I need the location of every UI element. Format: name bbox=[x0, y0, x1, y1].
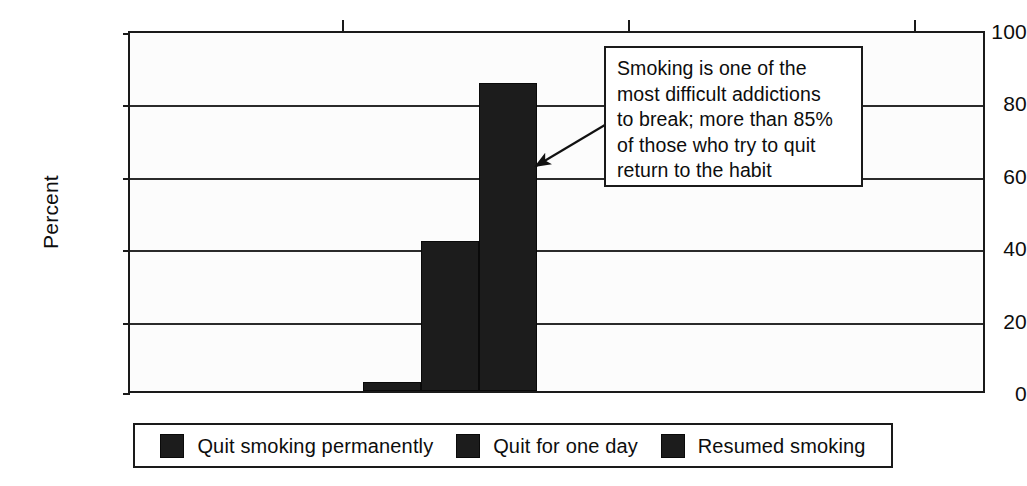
legend-swatch-icon bbox=[160, 434, 184, 458]
chart-legend: Quit smoking permanently Quit for one da… bbox=[133, 423, 893, 468]
bar-resumed-smoking bbox=[479, 83, 537, 391]
legend-label: Quit for one day bbox=[493, 436, 638, 456]
legend-item-quit-for-one-day: Quit for one day bbox=[456, 434, 638, 458]
legend-label: Quit smoking permanently bbox=[197, 436, 433, 456]
callout-line-4: of those who try to quit bbox=[617, 133, 852, 159]
annotation-callout: Smoking is one of the most difficult add… bbox=[604, 46, 863, 187]
gridline-20 bbox=[130, 323, 983, 325]
callout-line-1: Smoking is one of the bbox=[617, 56, 852, 82]
bar-quit-for-one-day bbox=[421, 241, 479, 391]
legend-swatch-icon bbox=[456, 434, 480, 458]
x-tick-mark-2 bbox=[628, 20, 630, 33]
x-tick-mark-1 bbox=[342, 20, 344, 33]
legend-label: Resumed smoking bbox=[698, 436, 866, 456]
legend-item-quit-smoking-permanently: Quit smoking permanently bbox=[160, 434, 433, 458]
y-axis-title: Percent bbox=[39, 152, 63, 272]
callout-line-5: return to the habit bbox=[617, 158, 852, 184]
y-tick-mark-40 bbox=[123, 250, 130, 252]
gridline-40 bbox=[130, 250, 983, 252]
callout-line-3: to break; more than 85% bbox=[617, 107, 852, 133]
legend-item-resumed-smoking: Resumed smoking bbox=[661, 434, 866, 458]
y-tick-mark-80 bbox=[123, 105, 130, 107]
callout-line-2: most difficult addictions bbox=[617, 82, 852, 108]
y-tick-mark-100 bbox=[123, 33, 130, 35]
legend-swatch-icon bbox=[661, 434, 685, 458]
y-tick-mark-20 bbox=[123, 323, 130, 325]
y-tick-mark-0 bbox=[123, 393, 130, 395]
bar-quit-smoking-permanently bbox=[363, 382, 421, 391]
x-tick-mark-3 bbox=[914, 20, 916, 33]
chart-screenshot: Percent 100 80 60 40 20 0 bbox=[0, 0, 1027, 486]
y-tick-mark-60 bbox=[123, 178, 130, 180]
